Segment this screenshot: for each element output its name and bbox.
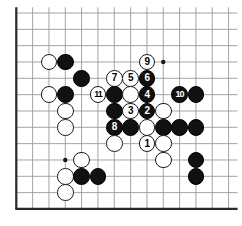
- numbered-stone-8: 8: [106, 119, 123, 136]
- stone-move-number: 5: [128, 73, 133, 83]
- white-stone: [57, 168, 74, 185]
- stone-move-number: 1: [144, 138, 149, 148]
- numbered-stone-11: 11: [90, 86, 107, 103]
- numbered-stone-3: 3: [122, 103, 139, 120]
- numbered-stone-4: 4: [139, 86, 156, 103]
- numbered-stone-10: 10: [171, 86, 188, 103]
- stone-move-number: 6: [144, 73, 149, 83]
- black-stone: [106, 103, 123, 120]
- numbered-stone-5: 5: [122, 70, 139, 87]
- black-stone: [73, 168, 90, 185]
- numbered-stone-6: 6: [139, 70, 156, 87]
- stone-move-number: 3: [128, 105, 133, 115]
- white-stone: [73, 152, 90, 169]
- stone-move-number: 2: [144, 105, 149, 115]
- black-stone: [188, 119, 205, 136]
- stone-move-number: 7: [112, 73, 117, 83]
- white-stone: [155, 103, 172, 120]
- white-stone: [106, 135, 123, 152]
- stone-move-number: 9: [144, 56, 149, 66]
- star-point: [161, 60, 165, 64]
- black-stone: [57, 86, 74, 103]
- black-stone: [122, 119, 139, 136]
- black-stone: [106, 86, 123, 103]
- black-stone: [171, 119, 188, 136]
- white-stone: [122, 86, 139, 103]
- white-stone: [41, 86, 58, 103]
- go-board-diagram: 1175694328110: [0, 0, 242, 226]
- white-stone: [57, 103, 74, 120]
- white-stone: [57, 119, 74, 136]
- stone-move-number: 10: [176, 90, 184, 99]
- white-stone: [155, 152, 172, 169]
- numbered-stone-1: 1: [139, 135, 156, 152]
- stone-move-number: 8: [112, 122, 117, 132]
- black-stone: [73, 70, 90, 87]
- black-stone: [90, 168, 107, 185]
- white-stone: [139, 119, 156, 136]
- stone-move-number: 4: [144, 89, 149, 99]
- black-stone: [188, 168, 205, 185]
- white-stone: [57, 184, 74, 201]
- numbered-stone-7: 7: [106, 70, 123, 87]
- star-point: [63, 158, 67, 162]
- black-stone: [57, 54, 74, 71]
- black-stone: [155, 119, 172, 136]
- black-stone: [188, 86, 205, 103]
- white-stone: [155, 135, 172, 152]
- stone-move-number: 11: [94, 90, 102, 99]
